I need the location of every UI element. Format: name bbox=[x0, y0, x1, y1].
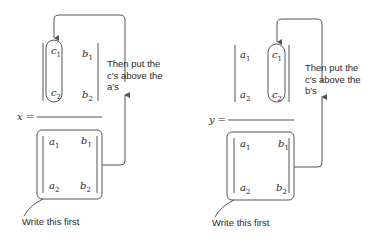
left-bottom-a1: a1 bbox=[49, 136, 59, 152]
right-bottom-b1: b1 bbox=[278, 138, 289, 154]
right-top-c2: c2 bbox=[272, 89, 282, 105]
left-bottom-a2: a2 bbox=[49, 180, 59, 196]
right-bottom-connector bbox=[294, 97, 322, 167]
right-bottom-a2: a2 bbox=[240, 182, 250, 198]
left-first-note: Write this first bbox=[22, 216, 79, 228]
left-bottom-b1: b1 bbox=[81, 135, 92, 151]
left-instruction: Then put the c′s above the a′s bbox=[107, 58, 163, 93]
left-top-b2: b2 bbox=[82, 89, 93, 105]
left-bottom-b2: b2 bbox=[80, 180, 91, 196]
right-variable-label: y = bbox=[209, 114, 226, 125]
left-top-c1: c1 bbox=[51, 45, 61, 61]
right-bottom-b2: b2 bbox=[276, 182, 287, 198]
right-top-a2: a2 bbox=[240, 89, 250, 105]
left-bottom-box bbox=[37, 130, 102, 199]
diagram-lines bbox=[0, 0, 375, 242]
right-first-note: Write this first bbox=[212, 217, 269, 229]
right-top-c1: c1 bbox=[272, 49, 282, 65]
left-top-b1: b1 bbox=[82, 48, 93, 64]
left-bottom-connector bbox=[102, 95, 125, 165]
right-instruction: Then put the c′s above the b′s bbox=[305, 62, 361, 97]
left-top-c2: c2 bbox=[51, 87, 61, 103]
left-variable-label: x = bbox=[17, 111, 34, 122]
right-top-a1: a1 bbox=[240, 49, 250, 65]
right-bottom-a1: a1 bbox=[240, 138, 250, 154]
